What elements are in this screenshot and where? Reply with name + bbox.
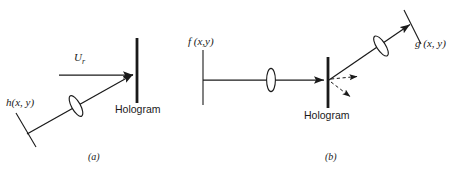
dashed-order-2-b — [331, 82, 350, 97]
object-lens-a — [67, 94, 86, 119]
figure-container: Ur h(x, y) Hologram (a) f (x,y) g (x, y)… — [0, 0, 459, 178]
output-plane-label-b: g (x, y) — [415, 38, 446, 49]
reference-beam-subscript: r — [82, 57, 85, 66]
optics-diagram-svg — [0, 0, 459, 178]
panel-b-group — [203, 10, 421, 108]
diffracted-beam-ray-b — [329, 25, 410, 81]
output-lens-b — [371, 34, 391, 58]
panel-caption-b: (b) — [325, 152, 337, 162]
reference-beam-symbol: U — [74, 51, 82, 63]
object-beam-label-a: h(x, y) — [6, 97, 34, 108]
hologram-label-b: Hologram — [304, 110, 350, 121]
input-lens-b — [267, 68, 276, 91]
dashed-order-1-b — [331, 77, 357, 80]
panel-caption-a: (a) — [88, 152, 100, 162]
reference-beam-label-a: Ur — [74, 52, 85, 66]
input-plane-label-b: f (x,y) — [188, 36, 214, 47]
hologram-label-a: Hologram — [115, 104, 161, 115]
